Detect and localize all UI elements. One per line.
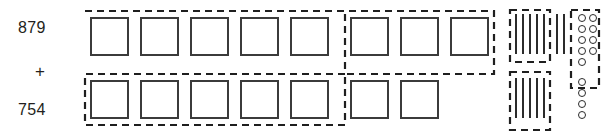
tens-rod — [529, 14, 531, 54]
hundreds-flat — [290, 80, 329, 119]
hundreds-flat — [140, 80, 179, 119]
hundreds-flat — [350, 80, 389, 119]
ones-unit — [589, 36, 597, 44]
hundreds-flat — [400, 80, 439, 119]
addend-bottom-label: 754 — [18, 101, 46, 119]
hundreds-flat — [190, 17, 229, 56]
hundreds-flat — [400, 17, 439, 56]
ones-unit — [578, 78, 586, 86]
ones-unit — [578, 100, 586, 108]
ones-unit — [589, 47, 597, 55]
tens-rod — [556, 14, 558, 54]
tens-rod — [536, 78, 538, 118]
ones-unit — [578, 111, 586, 119]
ones-unit — [578, 58, 586, 66]
hundreds-flat — [240, 17, 279, 56]
ones-unit — [578, 25, 586, 33]
ones-unit — [578, 89, 586, 97]
tens-rod — [515, 14, 517, 54]
tens-rod — [543, 78, 545, 118]
tens-rod — [543, 14, 545, 54]
hundreds-flat — [350, 17, 389, 56]
addend-top-label: 879 — [18, 19, 46, 37]
tens-rod — [515, 78, 517, 118]
tens-rod — [522, 78, 524, 118]
ones-unit — [589, 25, 597, 33]
hundreds-flat — [90, 17, 129, 56]
hundreds-flat — [190, 80, 229, 119]
hundreds-flat — [90, 80, 129, 119]
base-ten-block-diagram: 879 + 754 — [0, 0, 603, 140]
tens-rod — [529, 78, 531, 118]
hundreds-flat — [290, 17, 329, 56]
tens-rod — [536, 14, 538, 54]
tens-rod — [522, 14, 524, 54]
ones-unit — [578, 47, 586, 55]
ones-unit — [578, 36, 586, 44]
ones-unit — [578, 14, 586, 22]
ones-unit — [589, 14, 597, 22]
hundreds-flat — [450, 17, 489, 56]
tens-rod — [563, 14, 565, 54]
plus-operator-label: + — [35, 62, 45, 82]
hundreds-flat — [240, 80, 279, 119]
hundreds-flat — [140, 17, 179, 56]
